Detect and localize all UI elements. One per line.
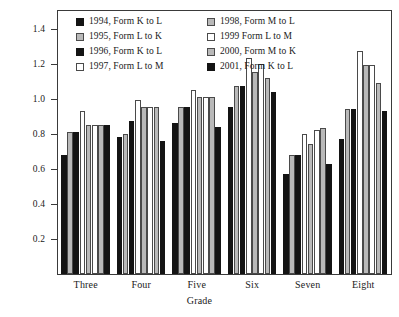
x-axis-category-label: Five: [169, 279, 225, 291]
y-axis-tick-label: 1.0: [0, 94, 57, 104]
bar: [339, 139, 345, 274]
legend-swatch-icon: [207, 33, 215, 41]
y-axis-tick-label: 1.2: [0, 59, 57, 69]
legend-swatch-icon: [76, 48, 84, 56]
bar: [129, 121, 135, 274]
bar: [234, 86, 240, 274]
bar: [314, 130, 320, 274]
bar: [117, 137, 123, 274]
legend-swatch-icon: [76, 18, 84, 26]
y-axis-tick-label: 0.2: [0, 234, 57, 244]
bar: [252, 72, 258, 274]
bar: [172, 123, 178, 274]
bar: [357, 51, 363, 274]
bar: [104, 125, 110, 274]
bar-chart-figure: 0.20.40.60.81.01.21.4 ThreeFourFiveSixSe…: [0, 0, 399, 317]
bar: [67, 132, 73, 274]
bar: [86, 125, 92, 274]
x-axis-category-label: Seven: [280, 279, 336, 291]
bar: [271, 92, 277, 274]
y-axis-tick-label: 1.4: [0, 24, 57, 34]
legend-swatch-icon: [76, 63, 84, 71]
bar-group: [336, 11, 392, 274]
bar: [258, 64, 264, 274]
legend-item-label: 1999 Form L to M: [220, 31, 292, 42]
bar: [326, 164, 332, 274]
bar: [61, 155, 67, 274]
bar: [209, 97, 215, 274]
bar: [246, 58, 252, 274]
bar: [308, 144, 314, 274]
bar: [197, 97, 203, 274]
bar: [178, 107, 184, 274]
bar: [289, 155, 295, 274]
bar: [154, 107, 160, 274]
legend-column-right: 1998, Form M to L1999 Form L to M2000, F…: [207, 14, 296, 74]
y-axis-tick-label: 0.8: [0, 129, 57, 139]
bar: [295, 155, 301, 274]
legend-item: 1995, Form L to K: [76, 29, 163, 44]
bar: [147, 107, 153, 274]
legend-item-label: 2000, Form M to K: [220, 46, 296, 57]
legend-item-label: 1994, Form K to L: [89, 16, 162, 27]
x-axis-category-label: Six: [225, 279, 281, 291]
bar: [265, 78, 271, 274]
legend-swatch-icon: [207, 18, 215, 26]
legend-item: 1997, Form L to M: [76, 59, 163, 74]
bar: [141, 107, 147, 274]
legend-item: 1996, Form K to L: [76, 44, 163, 59]
bar: [363, 65, 369, 274]
bar: [160, 141, 166, 274]
bar: [228, 107, 234, 274]
legend-item-label: 1996, Form K to L: [89, 46, 162, 57]
bar: [73, 132, 79, 274]
x-axis-category-label: Three: [58, 279, 114, 291]
legend-item: 2001, Form K to L: [207, 59, 296, 74]
bar: [184, 107, 190, 274]
legend-item-label: 1998, Form M to L: [220, 16, 295, 27]
bar: [345, 109, 351, 274]
x-axis-category-label: Four: [114, 279, 170, 291]
y-axis-tick-label: 0.6: [0, 164, 57, 174]
bar: [135, 100, 141, 274]
bar: [320, 128, 326, 274]
legend-item: 1999 Form L to M: [207, 29, 296, 44]
legend-column-left: 1994, Form K to L1995, Form L to K1996, …: [76, 14, 163, 74]
bar: [369, 65, 375, 274]
legend-item: 1994, Form K to L: [76, 14, 163, 29]
legend-item-label: 2001, Form K to L: [220, 61, 293, 72]
x-axis-category-label: Eight: [336, 279, 392, 291]
bar: [302, 134, 308, 274]
y-axis-tick-label: 0.4: [0, 199, 57, 209]
x-axis-title: Grade: [0, 295, 399, 307]
bar: [215, 127, 221, 274]
legend-item-label: 1997, Form L to M: [89, 61, 163, 72]
legend-item: 1998, Form M to L: [207, 14, 296, 29]
bar: [240, 86, 246, 274]
bar: [376, 83, 382, 274]
legend-item-label: 1995, Form L to K: [89, 31, 162, 42]
legend-swatch-icon: [76, 33, 84, 41]
bar: [382, 111, 388, 274]
legend-swatch-icon: [207, 63, 215, 71]
bar: [283, 174, 289, 274]
legend-item: 2000, Form M to K: [207, 44, 296, 59]
bar: [98, 125, 104, 274]
legend-swatch-icon: [207, 48, 215, 56]
bar: [203, 97, 209, 274]
bar: [123, 134, 129, 274]
bar: [92, 125, 98, 274]
bar: [191, 90, 197, 274]
bar: [80, 111, 86, 274]
bar: [351, 109, 357, 274]
